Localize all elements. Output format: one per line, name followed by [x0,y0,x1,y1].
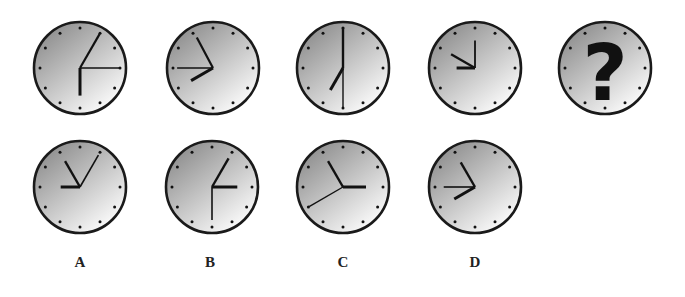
clock-face-icon [425,18,525,118]
option-label-c: C [333,254,353,271]
clock-face-icon [162,137,262,237]
clock-option-d[interactable] [425,137,525,237]
clock-question-mark: ? [555,18,655,118]
clock-face-icon [30,18,130,118]
clock-face-icon [30,137,130,237]
clock-sequence-1 [30,18,130,118]
option-label-a: A [70,254,90,271]
clock-option-a[interactable] [30,137,130,237]
clock-face-icon [163,18,263,118]
clock-option-c[interactable] [293,137,393,237]
clock-option-b[interactable] [162,137,262,237]
clock-face-icon [293,18,393,118]
option-label-d: D [465,254,485,271]
clock-face-icon [293,137,393,237]
question-mark-icon: ? [555,18,655,118]
clock-face-icon [425,137,525,237]
option-label-b: B [200,254,220,271]
svg-text:?: ? [582,28,627,118]
clock-sequence-4 [425,18,525,118]
clock-sequence-3 [293,18,393,118]
clock-sequence-2 [163,18,263,118]
